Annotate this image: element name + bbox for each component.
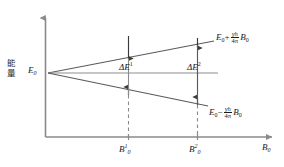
delta-e-2-superscript: 2	[198, 61, 201, 67]
delta-e-1-symbol: ΔE	[119, 62, 130, 72]
upper-fraction-denominator: 4π	[231, 38, 240, 45]
tick-label-second-field: B20	[189, 143, 201, 155]
tick1-subscript: 0	[128, 149, 131, 155]
y-axis-label: 能 量	[4, 58, 18, 78]
origin-energy-label: E0	[28, 66, 37, 76]
x-axis-label: B0	[262, 143, 271, 153]
y-axis-label-char-1: 能	[4, 58, 18, 68]
origin-energy-subscript: 0	[34, 70, 37, 76]
delta-e-1-superscript: 1	[130, 61, 133, 67]
upper-branch-label: E0+γh4πB0	[216, 31, 249, 46]
upper-operator: +	[225, 32, 230, 42]
x-axis-subscript: 0	[268, 147, 271, 153]
lower-fraction: γh4π	[224, 106, 233, 121]
diagram-canvas	[0, 0, 284, 167]
lower-operator: −	[218, 107, 223, 117]
delta-e-1-label: ΔE1	[119, 61, 133, 72]
lower-fraction-denominator: 4π	[224, 113, 233, 120]
y-axis-label-char-2: 量	[4, 68, 18, 78]
lower-branch-label: E0−γh4πB0	[209, 106, 242, 121]
energy-branch-group	[48, 41, 218, 106]
delta-e-2-symbol: ΔE	[187, 62, 198, 72]
energy-splitting-diagram: 能 量 E0 ΔE1 ΔE2 E0+γh4πB0 E0−γh4πB0 B10 B…	[0, 0, 284, 167]
delta-e-2-label: ΔE2	[187, 61, 201, 72]
upper-fraction: γh4π	[231, 31, 240, 46]
tick2-subscript: 0	[198, 149, 201, 155]
upper-field-subscript: 0	[246, 37, 249, 43]
lower-field-subscript: 0	[239, 112, 242, 118]
tick-label-first-field: B10	[119, 143, 131, 155]
